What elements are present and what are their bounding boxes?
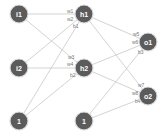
node-label: 1 [17, 118, 21, 125]
edge-label-w7: w7 [138, 82, 145, 88]
edge-b_in-h1 [19, 14, 84, 121]
edge-label-w4: w4 [67, 61, 74, 67]
node-label: h2 [80, 65, 88, 72]
edge-label-w6: w6 [132, 39, 139, 45]
node-i1: i1 [10, 5, 28, 23]
edge-label-w1: w1 [67, 8, 74, 14]
neural-network-diagram: w1w2b1w3w4b2w5w6b3w7w8b4 i1i21h1h21o1o2 [0, 0, 167, 136]
edge-h1-o1 [84, 14, 148, 42]
node-b_in: 1 [10, 112, 28, 130]
node-label: i2 [16, 65, 22, 72]
node-label: o2 [144, 93, 152, 100]
edge-label-b1: b1 [73, 23, 79, 29]
node-o1: o1 [139, 33, 157, 51]
node-label: h1 [80, 11, 88, 18]
node-label: i1 [16, 11, 22, 18]
node-i2: i2 [10, 59, 28, 77]
node-h2: h2 [75, 59, 93, 77]
edge-label-w8: w8 [132, 90, 139, 96]
node-h1: h1 [75, 5, 93, 23]
node-b_hid: 1 [75, 112, 93, 130]
node-o2: o2 [139, 87, 157, 105]
node-label: o1 [144, 39, 152, 46]
edge-label-w5: w5 [133, 31, 140, 37]
edge-label-b2: b2 [70, 72, 76, 78]
edge-label-w3: w3 [68, 54, 75, 60]
edge-label-w2: w2 [67, 16, 74, 22]
node-label: 1 [82, 118, 86, 125]
nodes-layer: i1i21h1h21o1o2 [10, 5, 157, 130]
